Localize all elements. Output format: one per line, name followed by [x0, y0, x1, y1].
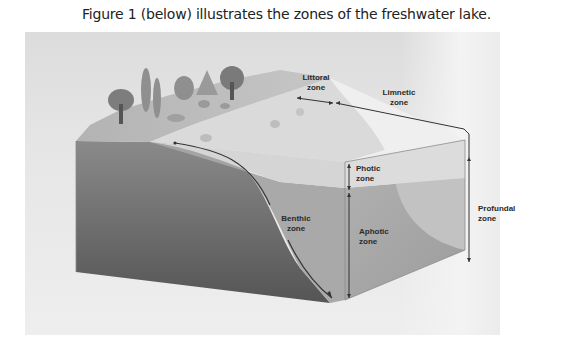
benthic-zone-label: Benthic zone — [276, 214, 316, 234]
littoral-zone-label: Littoral zone — [296, 73, 336, 93]
photic-zone-label: Photic zone — [356, 164, 386, 184]
lake-zones-diagram — [0, 0, 573, 352]
limnetic-zone-label: Limnetic zone — [377, 88, 421, 108]
aphotic-zone-label: Aphotic zone — [359, 227, 399, 247]
profundal-zone-label: Profundal zone — [478, 204, 528, 224]
